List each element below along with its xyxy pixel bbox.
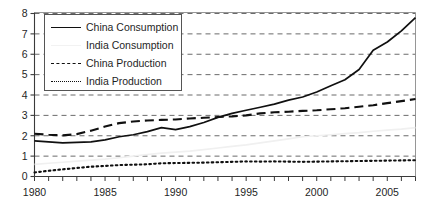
legend-swatch-dotted-line-icon — [51, 75, 81, 87]
chart-legend: China Consumption India Consumption Chin… — [44, 14, 182, 91]
line-chart: 012345678 198019851990199520002005 China… — [0, 0, 438, 211]
x-tick-label: 2005 — [376, 186, 400, 198]
legend-label: China Consumption — [86, 21, 178, 33]
legend-label: China Production — [86, 57, 167, 69]
y-tick-label: 3 — [22, 109, 28, 121]
series-line — [35, 160, 416, 172]
x-tick-label: 1980 — [23, 186, 47, 198]
legend-label: India Production — [86, 75, 162, 87]
legend-item-china-consumption: China Consumption — [45, 18, 181, 36]
legend-swatch-faint-line-icon — [51, 39, 81, 51]
y-tick-label: 6 — [22, 48, 28, 60]
series-line — [35, 99, 416, 135]
legend-label: India Consumption — [86, 39, 174, 51]
x-tick-label: 1985 — [93, 186, 117, 198]
legend-swatch-dashed-line-icon — [51, 57, 81, 69]
x-tick-label: 1995 — [234, 186, 258, 198]
y-tick-label: 2 — [22, 130, 28, 142]
x-axis: 198019851990199520002005 — [23, 177, 416, 198]
y-axis: 012345678 — [22, 7, 35, 182]
y-tick-label: 0 — [22, 170, 28, 182]
x-tick-label: 1990 — [164, 186, 188, 198]
legend-swatch-solid-line-icon — [51, 21, 81, 33]
y-tick-label: 5 — [22, 68, 28, 80]
legend-item-india-consumption: India Consumption — [45, 36, 181, 54]
y-tick-label: 7 — [22, 28, 28, 40]
y-tick-label: 8 — [22, 7, 28, 19]
legend-item-india-production: India Production — [45, 72, 181, 90]
x-tick-label: 2000 — [305, 186, 329, 198]
y-tick-label: 1 — [22, 150, 28, 162]
legend-item-china-production: China Production — [45, 54, 181, 72]
series-line — [35, 128, 416, 165]
y-tick-label: 4 — [22, 89, 28, 101]
